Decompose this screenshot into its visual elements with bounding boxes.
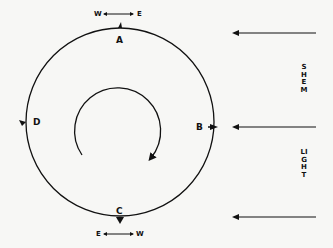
top-direction-arrow xyxy=(103,12,134,16)
top-direction-east: E xyxy=(137,11,142,18)
marker-a-icon xyxy=(118,22,122,28)
marker-b-icon xyxy=(208,124,218,130)
point-label-b: B xyxy=(196,123,203,132)
point-label-d: D xyxy=(33,118,40,127)
diagram-canvas xyxy=(0,0,333,248)
outer-circle xyxy=(26,28,214,216)
rotation-arrow xyxy=(75,88,161,158)
bottom-direction-west: W xyxy=(136,231,144,238)
side-label-upper: SHEM xyxy=(300,64,308,94)
bottom-direction-east: E xyxy=(96,231,101,238)
point-label-a: A xyxy=(116,36,123,45)
light-arrow-middle xyxy=(232,124,316,130)
light-arrow-bottom xyxy=(232,214,316,220)
side-label-lower: LIGHT xyxy=(300,149,308,179)
point-label-c: C xyxy=(116,207,123,216)
top-direction-west: W xyxy=(94,11,102,18)
marker-c-icon xyxy=(116,217,124,224)
marker-d-icon xyxy=(19,120,26,126)
light-arrow-top xyxy=(232,30,316,36)
bottom-direction-arrow xyxy=(103,232,134,236)
